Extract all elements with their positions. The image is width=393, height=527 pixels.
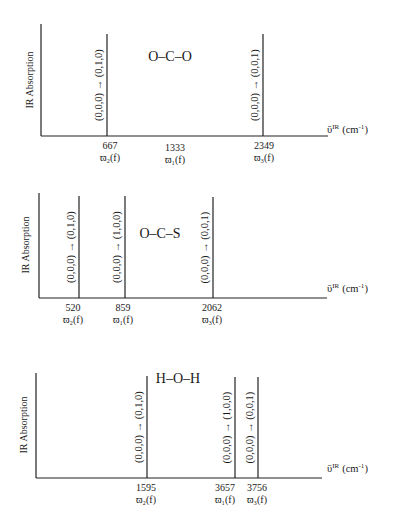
x-axis-unit: (cm [342,124,358,136]
ir-spectra-diagram: IR AbsorptionῡIR(cm-1)O–C–O(0,0,0) → (0,… [0,0,393,527]
transition-label: (0,0,0) → (0,1,0) [93,49,105,121]
transition-label: (0,0,0) → (0,0,1) [244,391,256,463]
x-axis-close-paren: ) [364,283,368,295]
mode-label: ϖ₃(f) [247,494,267,506]
spectrum-panel-3: IR AbsorptionῡIR(cm-1)H–O–H(0,0,0) → (0,… [18,371,368,506]
mode-label: ϖ₂(f) [100,152,120,164]
x-axis-unit: (cm [342,463,358,475]
absorption-peak: (0,0,0) → (0,0,1)2349ϖ₃(f) [249,34,274,164]
x-axis-superscript: IR [332,282,339,290]
wavenumber-label: 1595 [136,482,156,493]
y-axis-label: IR Absorption [24,52,35,109]
transition-label: (0,0,0) → (1,0,0) [221,391,233,463]
mode-label: ϖ₃(f) [202,314,222,326]
molecule-label: H–O–H [156,371,200,386]
x-axis-superscript: IR [332,462,339,470]
spectrum-panel-1: IR AbsorptionῡIR(cm-1)O–C–O(0,0,0) → (0,… [24,24,368,166]
transition-label: (0,0,0) → (0,0,1) [249,49,261,121]
x-axis-unit: (cm [342,283,358,295]
absorption-peak: (0,0,0) → (0,1,0)667ϖ₂(f) [93,34,120,164]
x-axis-label: ῡIR(cm-1) [327,462,368,475]
x-axis-close-paren: ) [364,124,368,136]
mode-label: ϖ₁(f) [215,494,235,506]
wavenumber-label: 667 [103,140,118,151]
inactive-mode-label: ϖ₁(f) [165,154,185,166]
absorption-peak: (0,0,0) → (0,1,0)520ϖ₂(f) [63,196,83,326]
absorption-peak: (0,0,0) → (1,0,0)859ϖ₁(f) [111,196,133,326]
molecule-label: O–C–O [148,49,192,64]
inactive-wavenumber-label: 1333 [165,142,185,153]
wavenumber-label: 2062 [202,302,222,313]
wavenumber-label: 2349 [254,140,274,151]
mode-label: ϖ₂(f) [136,494,156,506]
spectra-panels: IR AbsorptionῡIR(cm-1)O–C–O(0,0,0) → (0,… [18,24,368,506]
absorption-peak: (0,0,0) → (0,1,0)1595ϖ₂(f) [133,376,156,506]
absorption-peak: (0,0,0) → (0,0,1)2062ϖ₃(f) [199,197,222,326]
x-axis-label: ῡIR(cm-1) [327,123,368,136]
y-axis-label: IR Absorption [18,397,29,454]
wavenumber-label: 859 [116,302,131,313]
wavenumber-label: 3657 [215,482,235,493]
wavenumber-label: 3756 [247,482,267,493]
mode-label: ϖ₃(f) [254,152,274,164]
spectrum-panel-2: IR AbsorptionῡIR(cm-1)O–C–S(0,0,0) → (0,… [20,193,368,326]
mode-label: ϖ₁(f) [113,314,133,326]
transition-label: (0,0,0) → (0,1,0) [133,391,145,463]
mode-label: ϖ₂(f) [63,314,83,326]
x-axis-close-paren: ) [364,463,368,475]
transition-label: (0,0,0) → (0,1,0) [65,211,77,283]
transition-label: (0,0,0) → (1,0,0) [111,211,123,283]
y-axis-label: IR Absorption [20,217,31,274]
molecule-label: O–C–S [139,226,180,241]
absorption-peak: (0,0,0) → (0,0,1)3756ϖ₃(f) [244,377,267,506]
wavenumber-label: 520 [66,302,81,313]
x-axis-superscript: IR [332,123,339,131]
absorption-peak: (0,0,0) → (1,0,0)3657ϖ₁(f) [215,377,235,506]
x-axis-label: ῡIR(cm-1) [327,282,368,295]
transition-label: (0,0,0) → (0,0,1) [199,211,211,283]
